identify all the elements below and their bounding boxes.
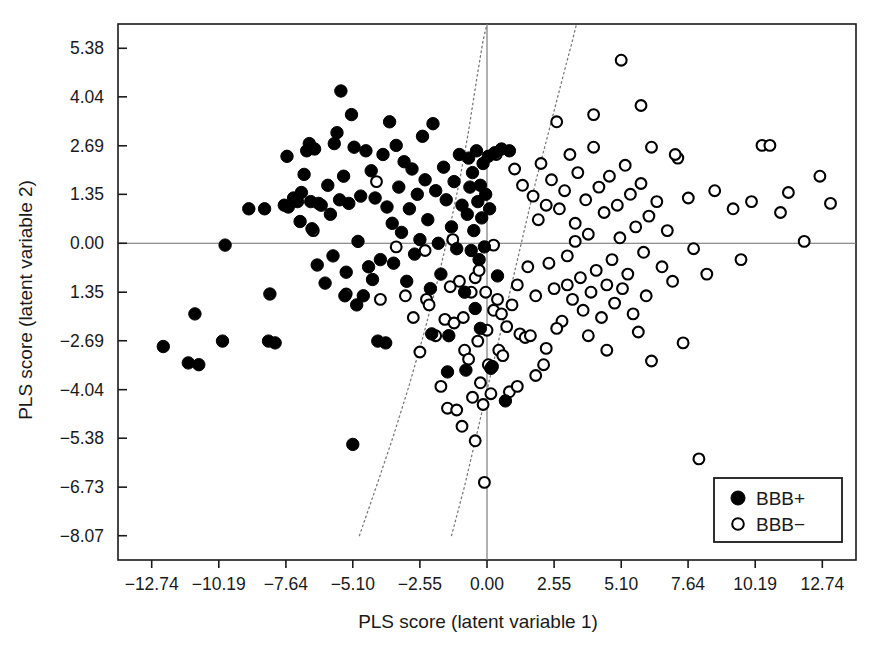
data-point-bbb-minus (825, 198, 836, 209)
y-tick-label: 5.38 (70, 38, 104, 58)
data-point-bbb-plus (374, 253, 386, 265)
data-point-bbb-minus (570, 218, 581, 229)
data-point-bbb-plus (281, 150, 293, 162)
data-point-bbb-plus (483, 203, 495, 215)
data-point-bbb-plus (308, 143, 320, 155)
data-point-bbb-plus (311, 259, 323, 271)
data-point-bbb-minus (424, 300, 435, 311)
data-point-bbb-plus (408, 248, 420, 260)
data-point-bbb-plus (340, 266, 352, 278)
data-point-bbb-plus (422, 214, 434, 226)
data-point-bbb-plus (324, 208, 336, 220)
data-point-bbb-minus (657, 261, 668, 272)
data-point-bbb-minus (565, 149, 576, 160)
data-point-bbb-minus (601, 345, 612, 356)
data-point-bbb-plus (430, 185, 442, 197)
data-point-bbb-plus (315, 199, 327, 211)
data-point-bbb-plus (269, 337, 281, 349)
data-point-bbb-plus (427, 118, 439, 130)
data-point-bbb-minus (638, 247, 649, 258)
data-point-bbb-minus (408, 312, 419, 323)
data-point-bbb-minus (415, 347, 426, 358)
data-point-bbb-minus (599, 207, 610, 218)
data-point-bbb-plus (157, 340, 169, 352)
data-point-bbb-minus (575, 272, 586, 283)
data-point-bbb-plus (366, 273, 378, 285)
data-point-bbb-minus (528, 191, 539, 202)
data-point-bbb-minus (533, 214, 544, 225)
y-tick-label: −6.73 (60, 477, 104, 497)
legend-marker-bbb-plus (731, 491, 745, 505)
data-point-bbb-minus (622, 269, 633, 280)
data-point-bbb-minus (474, 265, 485, 276)
data-point-bbb-minus (630, 222, 641, 233)
data-point-bbb-plus (406, 163, 418, 175)
data-point-bbb-minus (530, 290, 541, 301)
data-point-bbb-plus (390, 139, 402, 151)
data-point-bbb-plus (219, 239, 231, 251)
data-point-bbb-minus (591, 265, 602, 276)
data-point-bbb-plus (339, 290, 351, 302)
y-axis-title: PLS score (latent variable 2) (15, 180, 36, 420)
data-point-bbb-minus (662, 225, 673, 236)
data-point-bbb-minus (451, 405, 462, 416)
data-point-bbb-minus (517, 180, 528, 191)
data-point-bbb-plus (458, 286, 470, 298)
data-point-bbb-minus (457, 421, 468, 432)
data-point-bbb-minus (541, 200, 552, 211)
data-point-bbb-plus (331, 127, 343, 139)
data-point-bbb-minus (578, 305, 589, 316)
data-point-bbb-minus (646, 142, 657, 153)
data-point-bbb-plus (395, 226, 407, 238)
data-point-bbb-minus (615, 232, 626, 243)
x-tick-label: −10.19 (192, 574, 246, 594)
data-point-bbb-minus (572, 167, 583, 178)
data-point-bbb-minus (478, 399, 489, 410)
data-point-bbb-plus (383, 116, 395, 128)
data-point-bbb-minus (509, 164, 520, 175)
data-point-bbb-minus (546, 174, 557, 185)
data-point-bbb-plus (401, 275, 413, 287)
data-point-bbb-minus (497, 350, 508, 361)
data-point-bbb-minus (445, 281, 456, 292)
data-point-bbb-minus (651, 196, 662, 207)
data-point-bbb-plus (403, 203, 415, 215)
data-point-bbb-minus (371, 176, 382, 187)
data-point-bbb-plus (424, 282, 436, 294)
data-point-bbb-plus (345, 108, 357, 120)
data-point-bbb-minus (799, 236, 810, 247)
data-point-bbb-minus (701, 269, 712, 280)
data-point-bbb-minus (586, 287, 597, 298)
data-point-bbb-minus (783, 187, 794, 198)
x-tick-label: 10.19 (733, 574, 777, 594)
y-tick-label: 2.69 (70, 136, 104, 156)
data-point-bbb-plus (348, 141, 360, 153)
x-tick-label: 12.74 (800, 574, 844, 594)
data-point-bbb-plus (416, 130, 428, 142)
data-point-bbb-minus (596, 312, 607, 323)
x-axis-tick-labels: −12.74−10.19−7.64−5.10−2.550.002.555.107… (125, 574, 845, 594)
data-point-bbb-plus (478, 241, 490, 253)
data-point-bbb-minus (625, 189, 636, 200)
data-point-bbb-minus (775, 207, 786, 218)
data-point-bbb-plus (264, 288, 276, 300)
data-point-bbb-minus (633, 327, 644, 338)
data-point-bbb-minus (472, 336, 483, 347)
legend: BBB+BBB− (714, 478, 842, 542)
data-point-bbb-minus (588, 109, 599, 120)
data-point-bbb-minus (683, 193, 694, 204)
data-point-bbb-plus (466, 166, 478, 178)
data-point-bbb-minus (562, 280, 573, 291)
y-tick-label: −8.07 (60, 526, 104, 546)
data-point-bbb-minus (616, 55, 627, 66)
data-point-bbb-plus (352, 235, 364, 247)
data-point-bbb-plus (503, 145, 515, 157)
data-point-bbb-minus (522, 261, 533, 272)
data-point-bbb-minus (512, 280, 523, 291)
data-point-bbb-plus (437, 161, 449, 173)
data-point-bbb-plus (480, 188, 492, 200)
y-tick-label: −4.04 (60, 380, 105, 400)
data-point-bbb-plus (470, 145, 482, 157)
data-point-bbb-minus (709, 185, 720, 196)
data-point-bbb-minus (463, 354, 474, 365)
